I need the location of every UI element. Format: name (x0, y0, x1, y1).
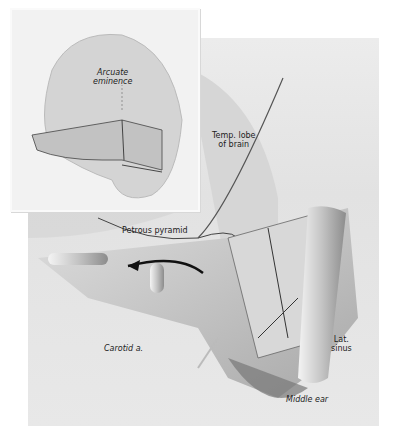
label-middle-ear: Middle ear (286, 395, 328, 404)
label-petrous-pyramid: Petrous pyramid (122, 226, 187, 235)
inset-illustration-panel (10, 8, 200, 212)
skull-base-drawing (12, 10, 198, 210)
label-temporal-lobe: Temp. lobe of brain (212, 131, 256, 149)
label-carotid-artery: Carotid a. (104, 344, 143, 353)
label-lateral-sinus: Lat. sinus (331, 335, 352, 353)
label-arcuate-eminence: Arcuate eminence (93, 68, 132, 86)
